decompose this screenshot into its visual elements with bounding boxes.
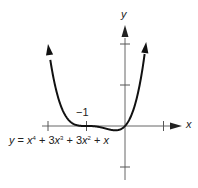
curve-left-arrow-icon	[46, 44, 53, 55]
x-axis-arrow-icon	[170, 123, 182, 130]
curve-right-arrow-icon	[141, 42, 148, 53]
eq-plus2: + 3	[63, 134, 82, 146]
function-graph	[0, 0, 198, 188]
function-curve	[50, 54, 144, 130]
eq-plus1: + 3	[36, 134, 55, 146]
tick-label-minus-one: −1	[76, 106, 89, 118]
equation-label: y = x4 + 3x3 + 3x2 + x	[9, 134, 109, 146]
x-axis-label: x	[186, 118, 192, 130]
y-axis-label: y	[121, 8, 127, 20]
eq-term4: x	[103, 134, 109, 146]
y-axis-arrow-icon	[122, 25, 129, 37]
eq-equals: =	[15, 134, 28, 146]
eq-plus3: +	[91, 134, 104, 146]
